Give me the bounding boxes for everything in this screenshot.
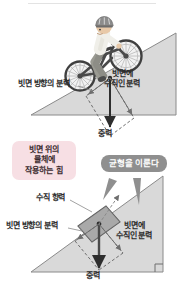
label-perpendicular-component-top-line1: 빗면에	[112, 70, 132, 79]
label-parallel-component-bottom: 빗면 방향의 분력	[6, 222, 58, 231]
callout-pink-box: 빗면 위의 물체에 작용하는 힘	[12, 141, 76, 180]
label-perpendicular-component-bottom-line1: 빗면에	[124, 222, 144, 231]
rider-hand	[116, 43, 121, 48]
normal-force-leader	[70, 200, 92, 212]
label-gravity-top: 중력	[98, 130, 112, 139]
physics-incline-figure: 빗면 방향의 분력 빗면에 수직인 분력 중력 빗면 위의 물체에 작용하는 힘…	[0, 0, 185, 303]
label-perpendicular-component-top-line2: 수직인 분력	[104, 80, 140, 89]
label-normal-force: 수직 항력	[36, 194, 65, 203]
callout-gray-bubble: 균형을 이룬다	[101, 155, 167, 172]
pink-box-line-3: 작용하는 힘	[17, 166, 71, 176]
label-perpendicular-component-bottom-line2: 수직인 분력	[116, 232, 152, 241]
label-gravity-bottom: 중력	[86, 272, 100, 281]
label-parallel-component-top: 빗면 방향의 분력	[18, 80, 70, 89]
pink-box-line-2: 물체에	[17, 155, 71, 165]
pink-box-line-1: 빗면 위의	[17, 145, 71, 155]
